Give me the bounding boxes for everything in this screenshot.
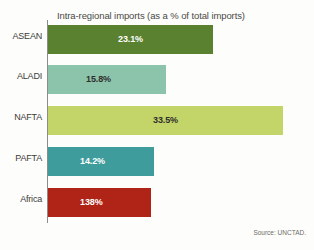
bar-value-pafta: 14.2% <box>80 156 105 166</box>
bar-value-aladi: 15.8% <box>86 74 111 84</box>
bar-track-nafta: 33.5% <box>48 106 308 135</box>
bar-value-asean: 23.1% <box>118 34 143 44</box>
bar-track-africa: 138% <box>48 188 308 217</box>
bar-row: PAFTA 14.2% <box>0 142 314 182</box>
bar-value-nafta: 33.5% <box>153 115 178 125</box>
category-label-asean: ASEAN <box>0 31 42 41</box>
bar-row: ALADI 15.8% <box>0 60 314 100</box>
bar-row: ASEAN 23.1% <box>0 20 314 60</box>
category-label-nafta: NAFTA <box>0 112 42 122</box>
bar-track-aladi: 15.8% <box>48 65 308 94</box>
category-label-africa: Africa <box>0 194 42 204</box>
category-label-aladi: ALADI <box>0 71 42 81</box>
category-label-pafta: PAFTA <box>0 153 42 163</box>
bar-chart-figure: Intra-regional imports (as a % of total … <box>0 0 314 250</box>
source-note: Source: UNCTAD. <box>253 229 306 236</box>
bar-value-africa: 138% <box>80 197 103 207</box>
bar-track-pafta: 14.2% <box>48 147 308 176</box>
bar-track-asean: 23.1% <box>48 25 308 54</box>
bar-row: NAFTA 33.5% <box>0 101 314 141</box>
bar-row: Africa 138% <box>0 183 314 223</box>
plot-area: ASEAN 23.1% ALADI 15.8% NAFTA 33.5% PAFT… <box>0 20 314 223</box>
